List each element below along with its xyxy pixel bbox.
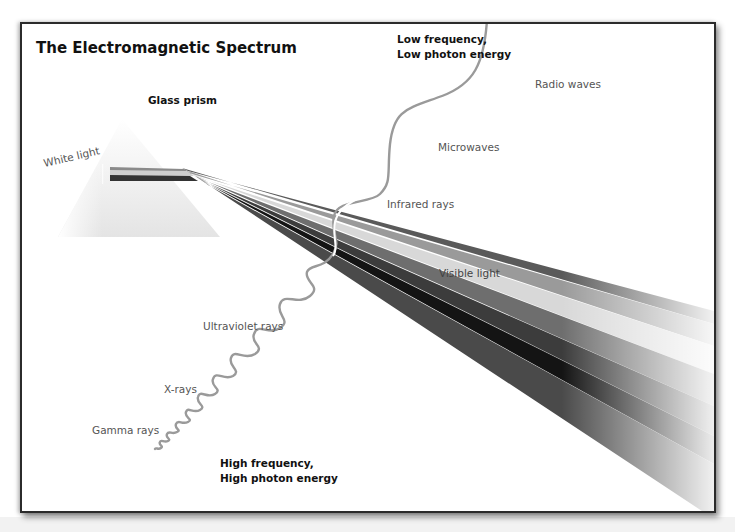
high-frequency-label: High frequency, High photon energy: [220, 456, 338, 486]
band-label-ultraviolet: Ultraviolet rays: [203, 320, 283, 332]
band-label-infrared: Infrared rays: [387, 198, 454, 210]
spectrum-illustration: [22, 24, 714, 511]
page-bottom-strip: [0, 517, 735, 532]
dispersed-beam: [22, 24, 714, 511]
low-frequency-label: Low frequency, Low photon energy: [397, 32, 511, 62]
band-label-visible-light: Visible light: [439, 267, 500, 279]
prism-label: Glass prism: [148, 93, 217, 108]
diagram-frame: The Electromagnetic Spectrum Glass prism…: [20, 22, 716, 513]
band-label-gamma-rays: Gamma rays: [92, 424, 159, 436]
band-label-x-rays: X-rays: [164, 383, 197, 395]
band-label-microwaves: Microwaves: [438, 141, 499, 153]
diagram-title: The Electromagnetic Spectrum: [36, 39, 297, 57]
band-label-radio-waves: Radio waves: [535, 78, 601, 90]
